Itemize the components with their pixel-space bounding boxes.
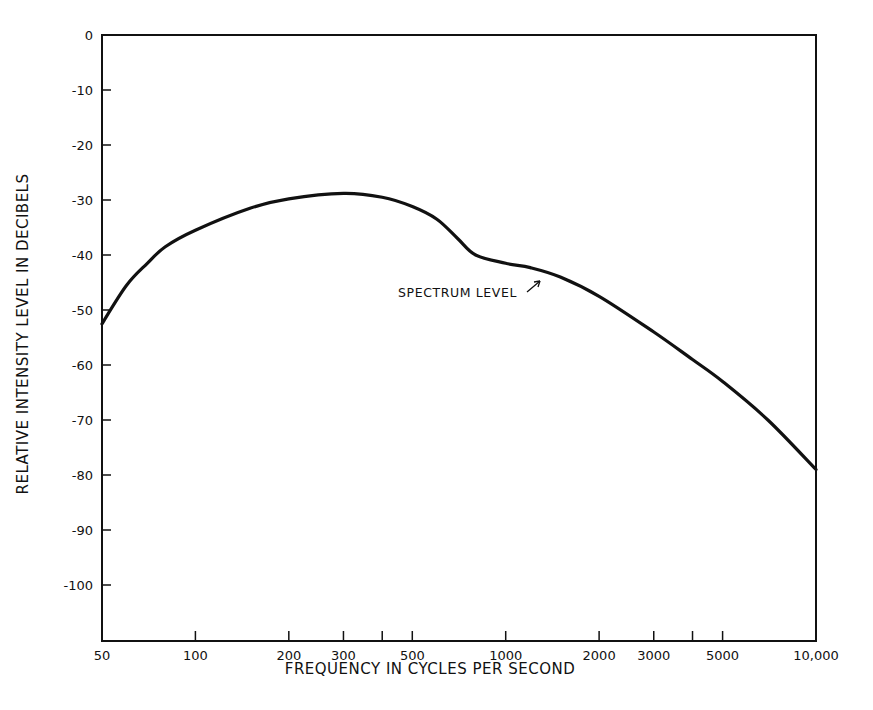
y-axis-title: RELATIVE INTENSITY LEVEL IN DECIBELS — [14, 173, 32, 494]
y-tick-label: -90 — [72, 523, 93, 538]
y-tick-label: -60 — [72, 358, 93, 373]
y-tick-label: -10 — [72, 83, 93, 98]
y-tick-label: -20 — [72, 138, 93, 153]
y-tick-label: -80 — [72, 468, 93, 483]
x-tick-label: 2000 — [583, 648, 616, 663]
x-axis-title: FREQUENCY IN CYCLES PER SECOND — [285, 660, 575, 678]
y-axis-ticks: 0-10-20-30-40-50-60-70-80-90-100 — [63, 28, 111, 593]
spectrum-chart: 0-10-20-30-40-50-60-70-80-90-100 5010020… — [0, 0, 873, 710]
annotation-label: SPECTRUM LEVEL — [398, 285, 517, 300]
y-tick-label: -100 — [63, 578, 93, 593]
x-tick-label: 10,000 — [793, 648, 839, 663]
spectrum-level-curve — [102, 193, 816, 469]
y-tick-label: -30 — [72, 193, 93, 208]
x-tick-label: 3000 — [637, 648, 670, 663]
plot-frame — [102, 35, 816, 641]
y-tick-label: -70 — [72, 413, 93, 428]
y-tick-label: -40 — [72, 248, 93, 263]
y-tick-label: -50 — [72, 303, 93, 318]
spectrum-level-annotation: SPECTRUM LEVEL — [398, 281, 540, 300]
y-tick-label: 0 — [85, 28, 93, 43]
x-axis-ticks: 50100200300500100020003000500010,000 — [94, 631, 839, 663]
x-tick-label: 5000 — [706, 648, 739, 663]
x-tick-label: 50 — [94, 648, 111, 663]
x-tick-label: 100 — [183, 648, 208, 663]
